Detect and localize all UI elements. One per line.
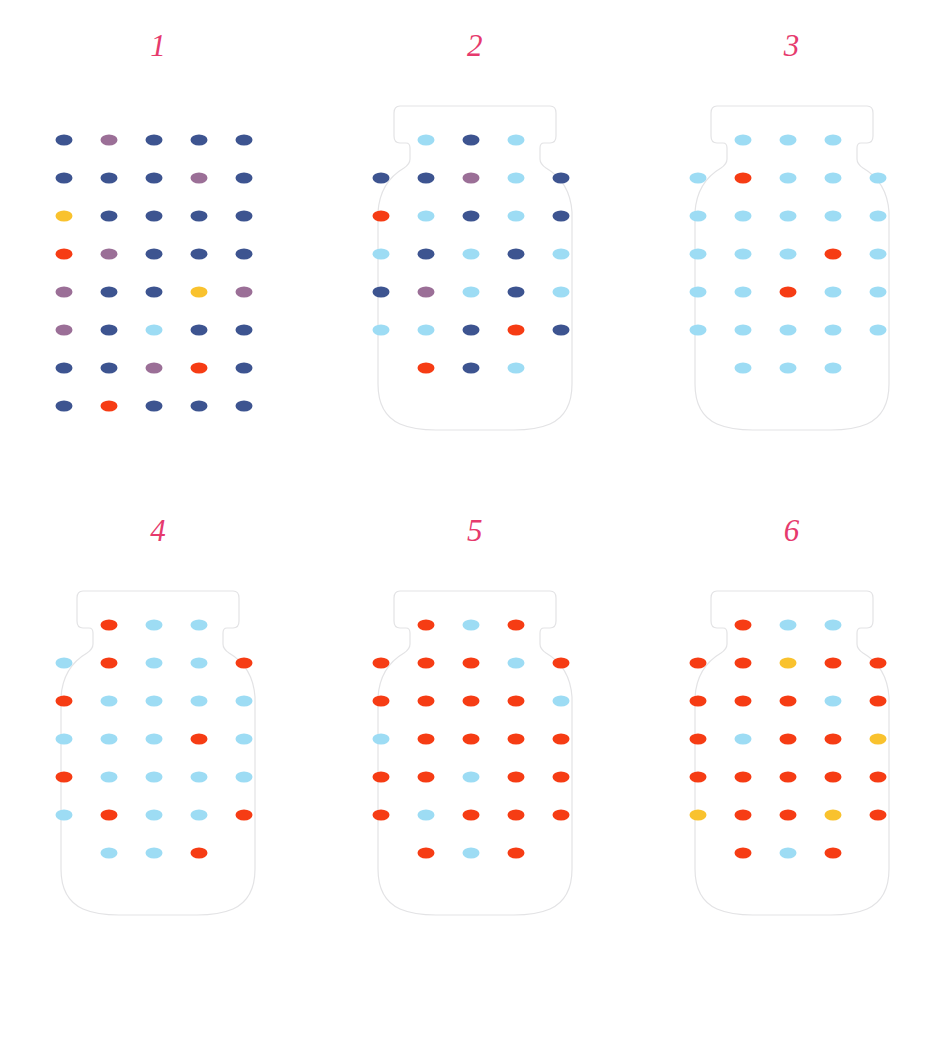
dot-light-blue — [462, 620, 479, 631]
dot-dark-blue — [56, 401, 73, 412]
dot-dark-blue — [101, 325, 118, 336]
dot-red-orange — [191, 363, 208, 374]
dot-red-orange — [236, 810, 253, 821]
dot-red-orange — [552, 772, 569, 783]
dot-red-orange — [372, 658, 389, 669]
dot-dark-blue — [191, 401, 208, 412]
dot-yellow — [56, 211, 73, 222]
dot-light-blue — [146, 658, 163, 669]
dot-light-blue — [689, 325, 706, 336]
dot-light-blue — [552, 696, 569, 707]
jar-panel-6: 6 — [633, 515, 950, 1000]
dot-purple — [101, 249, 118, 260]
dot-red-orange — [417, 696, 434, 707]
dot-light-blue — [146, 772, 163, 783]
dot-dark-blue — [236, 173, 253, 184]
dot-dark-blue — [462, 325, 479, 336]
dot-dark-blue — [236, 135, 253, 146]
dot-light-blue — [779, 363, 796, 374]
dot-red-orange — [869, 810, 886, 821]
dot-light-blue — [824, 696, 841, 707]
dot-light-blue — [56, 734, 73, 745]
dot-red-orange — [552, 734, 569, 745]
dot-light-blue — [779, 135, 796, 146]
dot-dark-blue — [146, 211, 163, 222]
dot-red-orange — [824, 848, 841, 859]
dot-red-orange — [417, 658, 434, 669]
dot-red-orange — [56, 772, 73, 783]
dot-light-blue — [146, 325, 163, 336]
dot-light-blue — [869, 325, 886, 336]
dot-dark-blue — [101, 211, 118, 222]
dot-dark-blue — [146, 287, 163, 298]
dot-red-orange — [734, 772, 751, 783]
dot-red-orange — [734, 620, 751, 631]
dot-dark-blue — [56, 173, 73, 184]
dot-red-orange — [824, 249, 841, 260]
dot-light-blue — [734, 287, 751, 298]
dot-red-orange — [462, 734, 479, 745]
dot-dark-blue — [191, 249, 208, 260]
dot-yellow — [824, 810, 841, 821]
dot-light-blue — [869, 249, 886, 260]
dot-red-orange — [56, 696, 73, 707]
panel-number-label: 4 — [150, 515, 166, 555]
jar-panel-grid: 123456 — [0, 0, 950, 1048]
dot-dark-blue — [507, 249, 524, 260]
dot-purple — [146, 363, 163, 374]
dot-light-blue — [236, 734, 253, 745]
dot-red-orange — [507, 772, 524, 783]
dot-light-blue — [56, 658, 73, 669]
dot-dark-blue — [417, 249, 434, 260]
dot-red-orange — [101, 658, 118, 669]
dot-light-blue — [56, 810, 73, 821]
dot-dark-blue — [552, 173, 569, 184]
dot-red-orange — [734, 810, 751, 821]
dot-dark-blue — [56, 363, 73, 374]
dot-light-blue — [689, 173, 706, 184]
dot-dark-blue — [56, 135, 73, 146]
dot-red-orange — [507, 696, 524, 707]
jar-panel-5: 5 — [317, 515, 634, 1000]
poster-canvas: 123456 — [0, 0, 950, 1048]
dot-red-orange — [372, 211, 389, 222]
dot-red-orange — [779, 287, 796, 298]
dot-red-orange — [689, 658, 706, 669]
dot-red-orange — [869, 658, 886, 669]
dot-red-orange — [417, 848, 434, 859]
dot-dark-blue — [236, 249, 253, 260]
dot-red-orange — [689, 734, 706, 745]
dot-purple — [417, 287, 434, 298]
dot-red-orange — [56, 249, 73, 260]
dot-light-blue — [507, 211, 524, 222]
dot-light-blue — [417, 810, 434, 821]
dot-red-orange — [507, 325, 524, 336]
dot-red-orange — [417, 772, 434, 783]
dot-light-blue — [734, 363, 751, 374]
dot-red-orange — [462, 658, 479, 669]
dot-light-blue — [869, 211, 886, 222]
dot-light-blue — [507, 658, 524, 669]
dot-light-blue — [191, 658, 208, 669]
dot-dark-blue — [236, 325, 253, 336]
jar-container — [47, 102, 269, 432]
dot-light-blue — [236, 772, 253, 783]
dot-light-blue — [372, 325, 389, 336]
dot-light-blue — [417, 325, 434, 336]
dot-red-orange — [689, 696, 706, 707]
jar-container — [681, 587, 903, 917]
dot-dark-blue — [191, 135, 208, 146]
dot-yellow — [191, 287, 208, 298]
dot-light-blue — [146, 696, 163, 707]
dot-dark-blue — [462, 135, 479, 146]
dot-dark-blue — [146, 135, 163, 146]
dot-purple — [236, 287, 253, 298]
dot-layer — [47, 102, 269, 432]
dot-light-blue — [462, 848, 479, 859]
jar-panel-3: 3 — [633, 30, 950, 515]
dot-red-orange — [507, 620, 524, 631]
dot-light-blue — [146, 620, 163, 631]
dot-red-orange — [824, 734, 841, 745]
dot-red-orange — [824, 772, 841, 783]
dot-light-blue — [552, 287, 569, 298]
